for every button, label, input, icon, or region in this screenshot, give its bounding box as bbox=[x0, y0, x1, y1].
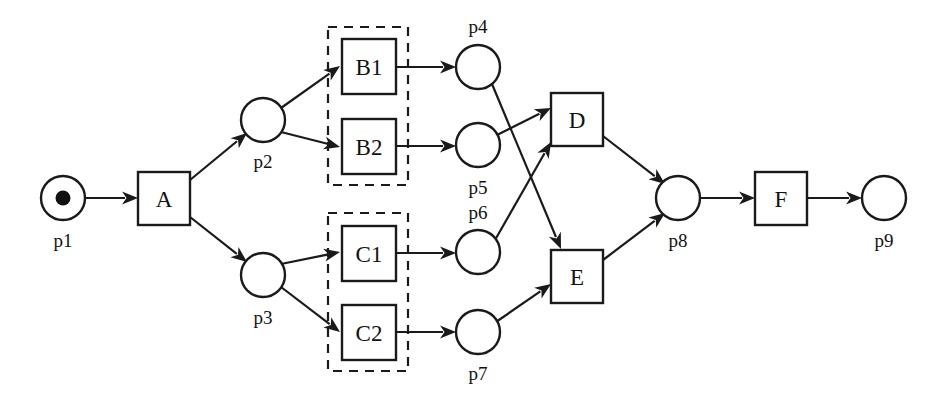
place-p9[interactable] bbox=[862, 176, 906, 220]
place-p6[interactable] bbox=[456, 230, 500, 274]
arrowhead-icon bbox=[534, 284, 551, 298]
place-label-p6: p6 bbox=[469, 202, 488, 223]
arrowhead-icon bbox=[323, 66, 340, 81]
transition-label-C1: C1 bbox=[356, 242, 383, 267]
place-label-p7: p7 bbox=[469, 363, 488, 384]
arc-E-to-p8 bbox=[603, 221, 655, 260]
place-p7[interactable] bbox=[456, 310, 500, 354]
transition-label-F: F bbox=[775, 187, 788, 212]
place-p3[interactable] bbox=[241, 253, 285, 297]
arc-p3-to-C2 bbox=[281, 287, 330, 324]
arc-p5-to-D bbox=[497, 114, 539, 135]
place-label-p5: p5 bbox=[469, 177, 488, 198]
arc-p6-to-D bbox=[495, 153, 545, 240]
place-label-p4: p4 bbox=[469, 16, 489, 37]
transition-label-B2: B2 bbox=[356, 135, 383, 160]
arc-A-to-p3 bbox=[190, 217, 237, 254]
arc-p2-to-B2 bbox=[281, 132, 327, 144]
arc-D-to-p8 bbox=[603, 136, 655, 176]
petri-net-diagram: p1p2p3p4p5p6p7p8p9AB1B2C1C2DEF bbox=[0, 0, 942, 404]
transition-label-D: D bbox=[569, 108, 586, 133]
arc-p4-to-E bbox=[492, 84, 556, 237]
petri-net-canvas: p1p2p3p4p5p6p7p8p9AB1B2C1C2DEF bbox=[0, 0, 942, 404]
arc-p2-to-B1 bbox=[281, 74, 329, 108]
place-label-p2: p2 bbox=[254, 151, 273, 172]
arc-p3-to-C1 bbox=[281, 255, 327, 264]
arcs-layer bbox=[85, 61, 862, 339]
place-label-p9: p9 bbox=[875, 230, 894, 251]
arrowhead-icon bbox=[323, 317, 340, 332]
arrowhead-icon bbox=[230, 247, 247, 262]
token-dot-icon bbox=[56, 191, 71, 206]
transition-label-E: E bbox=[570, 265, 584, 290]
place-p4[interactable] bbox=[456, 45, 500, 89]
place-p5[interactable] bbox=[456, 123, 500, 167]
arrowhead-icon bbox=[537, 142, 551, 159]
transition-label-B1: B1 bbox=[356, 55, 383, 80]
arc-A-to-p2 bbox=[190, 141, 237, 180]
place-p2[interactable] bbox=[241, 98, 285, 142]
transition-label-A: A bbox=[156, 187, 173, 212]
place-label-p8: p8 bbox=[669, 230, 688, 251]
place-label-p3: p3 bbox=[254, 307, 273, 328]
place-label-p1: p1 bbox=[54, 230, 73, 251]
arc-p7-to-E bbox=[496, 291, 540, 322]
transition-label-C2: C2 bbox=[356, 321, 383, 346]
place-p8[interactable] bbox=[656, 176, 700, 220]
